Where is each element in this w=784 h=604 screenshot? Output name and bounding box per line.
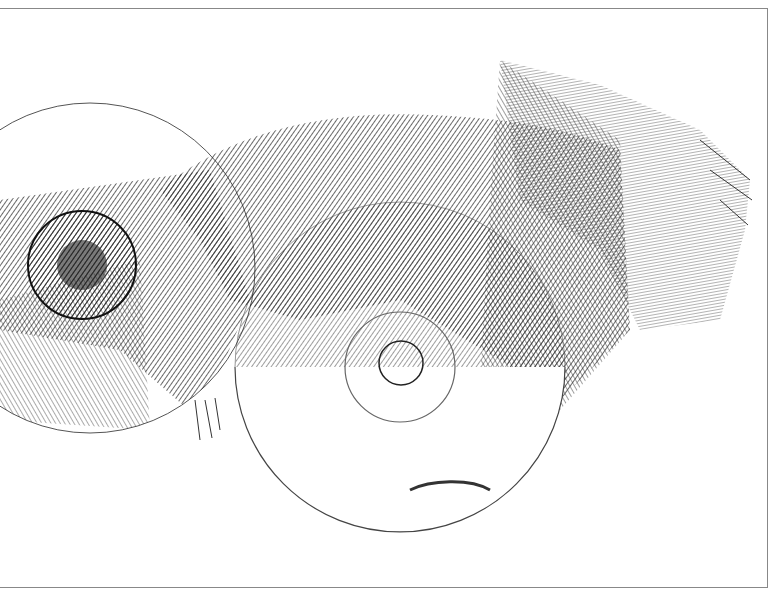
artwork <box>0 0 784 604</box>
center-disc <box>235 202 565 532</box>
